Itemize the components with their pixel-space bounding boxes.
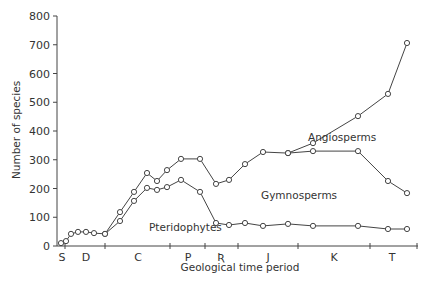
data-point bbox=[154, 178, 159, 183]
period-label: C bbox=[134, 251, 142, 264]
period-label: K bbox=[330, 251, 338, 264]
data-point bbox=[355, 114, 360, 119]
data-point bbox=[260, 149, 265, 154]
y-tick-label: 700 bbox=[29, 39, 50, 52]
data-point bbox=[63, 239, 68, 244]
y-tick-label: 300 bbox=[29, 154, 50, 167]
y-tick-label: 400 bbox=[29, 125, 50, 138]
period-label: T bbox=[388, 251, 396, 264]
pteridophytes-label: Pteridophytes bbox=[149, 221, 222, 233]
y-axis-title: Number of species bbox=[10, 81, 22, 179]
data-point bbox=[68, 231, 73, 236]
x-axis-title: Geological time period bbox=[181, 261, 300, 273]
y-tick-label: 500 bbox=[29, 96, 50, 109]
line-chart: 0100200300400500600700800 SDCPƦJKT Numbe… bbox=[0, 0, 426, 283]
data-point bbox=[385, 91, 390, 96]
gymnosperms-label: Gymnosperms bbox=[261, 189, 337, 201]
data-point bbox=[213, 181, 218, 186]
data-point bbox=[131, 198, 136, 203]
data-point bbox=[242, 162, 247, 167]
data-point bbox=[385, 178, 390, 183]
data-point bbox=[260, 223, 265, 228]
data-point bbox=[242, 220, 247, 225]
angiosperms-label: Angiosperms bbox=[308, 131, 376, 143]
data-point bbox=[117, 218, 122, 223]
data-point bbox=[117, 210, 122, 215]
period-label: D bbox=[82, 251, 90, 264]
data-point bbox=[355, 223, 360, 228]
data-point bbox=[285, 151, 290, 156]
data-point bbox=[404, 226, 409, 231]
y-tick-label: 0 bbox=[43, 240, 50, 253]
data-point bbox=[91, 231, 96, 236]
y-axis: 0100200300400500600700800 bbox=[29, 10, 57, 253]
data-point bbox=[58, 241, 63, 246]
data-point bbox=[285, 221, 290, 226]
data-point bbox=[131, 189, 136, 194]
data-point bbox=[83, 229, 88, 234]
y-tick-label: 100 bbox=[29, 211, 50, 224]
data-point bbox=[164, 185, 169, 190]
data-point bbox=[102, 231, 107, 236]
series-line bbox=[61, 180, 407, 243]
data-point bbox=[226, 177, 231, 182]
data-point bbox=[226, 222, 231, 227]
data-point bbox=[310, 223, 315, 228]
data-point bbox=[355, 149, 360, 154]
data-point bbox=[144, 185, 149, 190]
data-point bbox=[178, 177, 183, 182]
y-tick-label: 600 bbox=[29, 68, 50, 81]
data-point bbox=[144, 170, 149, 175]
data-point bbox=[154, 187, 159, 192]
data-point bbox=[164, 168, 169, 173]
y-tick-label: 800 bbox=[29, 10, 50, 23]
data-point bbox=[385, 226, 390, 231]
data-point bbox=[197, 156, 202, 161]
data-point bbox=[178, 156, 183, 161]
data-lines bbox=[58, 40, 409, 245]
data-point bbox=[404, 40, 409, 45]
period-label: S bbox=[59, 251, 66, 264]
data-point bbox=[310, 149, 315, 154]
data-point bbox=[75, 229, 80, 234]
data-point bbox=[404, 191, 409, 196]
data-point bbox=[197, 189, 202, 194]
y-tick-label: 200 bbox=[29, 183, 50, 196]
